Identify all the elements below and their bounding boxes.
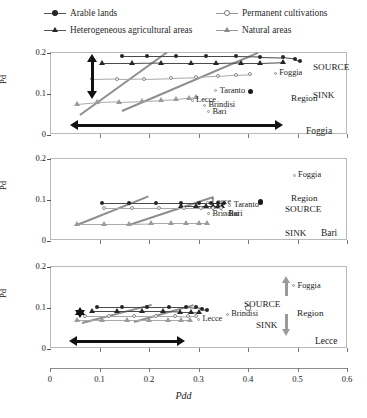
data-point — [158, 97, 164, 102]
sink-label: SINK — [256, 320, 277, 330]
data-point — [154, 314, 158, 318]
panel-label-lecce: Lecce — [315, 336, 337, 346]
vertical-range-arrow — [75, 307, 86, 318]
data-point — [194, 75, 198, 79]
source-label: SOURCE — [313, 62, 349, 72]
y-tick-0.2: 0.2 — [22, 154, 46, 163]
series-line — [176, 56, 206, 57]
data-point — [188, 309, 194, 314]
data-point — [74, 221, 80, 226]
data-point — [199, 206, 203, 210]
region-marker — [258, 199, 264, 205]
data-point — [204, 54, 208, 58]
data-point — [257, 60, 263, 65]
data-point — [145, 305, 149, 309]
panel-x-tick — [199, 348, 200, 352]
data-point — [89, 308, 95, 313]
data-point — [94, 99, 100, 104]
y-tick-0: 0 — [22, 344, 46, 353]
data-point — [187, 317, 193, 322]
data-point — [196, 220, 202, 225]
data-point — [248, 72, 252, 76]
y-axis-title: Pd — [0, 289, 8, 298]
chart-panel-lecce: Pd 0.2 0.1 0 LecceBrindisiFoggia SOURCE … — [0, 260, 367, 366]
panel-x-tick — [199, 240, 200, 244]
plot-area: LecceBrindisiFoggia — [50, 266, 347, 348]
data-point — [139, 308, 145, 313]
series-line — [129, 203, 156, 204]
panel-x-tick — [248, 348, 249, 352]
x-tick-mark — [149, 368, 150, 372]
data-point — [116, 99, 122, 104]
data-point — [160, 308, 166, 313]
series-line — [147, 56, 177, 57]
panel-x-tick — [149, 134, 150, 138]
data-point — [182, 206, 186, 210]
x-tick-label-0.3: 0.3 — [193, 374, 204, 384]
data-point — [126, 221, 132, 226]
x-tick-label-0.4: 0.4 — [243, 374, 254, 384]
series-line — [102, 203, 129, 204]
data-point — [173, 314, 177, 318]
y-axis-title: Pd — [0, 181, 8, 190]
data-point — [234, 54, 238, 58]
x-axis-title: Pdd — [0, 390, 367, 401]
x-tick-label-0: 0 — [48, 374, 52, 384]
panel-x-tick — [248, 134, 249, 138]
panel-x-tick — [347, 134, 348, 138]
data-point — [129, 60, 135, 65]
region-label: Region — [291, 93, 318, 103]
data-point — [120, 54, 124, 58]
y-axis-title: Pd — [0, 75, 8, 84]
city-marker-bari — [207, 110, 210, 113]
region-marker — [248, 89, 254, 95]
legend-label: Permanent cultivations — [242, 8, 327, 18]
data-point — [204, 220, 210, 225]
panel-x-tick — [100, 134, 101, 138]
series-line — [144, 78, 171, 80]
legend-item-heterogeneous-agricultural-areas: Heterogeneous agricultural areas — [44, 25, 192, 35]
data-point — [174, 54, 178, 58]
city-marker-foggia — [292, 284, 295, 287]
y-tick-0.1: 0.1 — [22, 195, 46, 204]
panel-x-tick — [298, 348, 299, 352]
city-marker-brindisi — [203, 104, 206, 107]
sink-arrow-down-icon — [282, 308, 291, 336]
x-tick-mark — [100, 368, 101, 372]
data-point — [234, 73, 238, 77]
legend-label: Arable lands — [70, 8, 117, 18]
data-point — [165, 317, 171, 322]
y-tick-0.1: 0.1 — [22, 303, 46, 312]
y-tick-0: 0 — [22, 130, 46, 139]
city-label-taranto: Taranto — [220, 86, 245, 95]
data-point — [99, 60, 105, 65]
data-point — [102, 206, 106, 210]
y-tick-0.2: 0.2 — [22, 262, 46, 271]
region-label: Region — [291, 193, 318, 203]
city-marker-lecce — [191, 99, 194, 102]
city-label-lecce: Lecce — [203, 314, 223, 323]
city-marker-taranto — [228, 204, 231, 207]
city-label-bari: Bari — [212, 107, 226, 116]
x-tick-label-0.1: 0.1 — [94, 374, 105, 384]
data-point — [188, 60, 194, 65]
data-point — [168, 220, 174, 225]
panel-x-tick — [298, 240, 299, 244]
legend-label: Natural areas — [242, 25, 291, 35]
series-line — [109, 316, 134, 317]
data-point — [95, 305, 99, 309]
series-line — [206, 56, 236, 57]
chart-legend: Arable lands Heterogeneous agricultural … — [44, 8, 364, 42]
panel-x-tick — [199, 134, 200, 138]
data-point — [216, 74, 220, 78]
series-line — [161, 63, 191, 64]
panel-x-tick — [149, 240, 150, 244]
data-point — [124, 317, 130, 322]
legend-item-permanent-cultivations: Permanent cultivations — [216, 8, 327, 18]
city-label-foggia: Foggia — [279, 68, 302, 77]
city-label-bari: Bari — [228, 209, 242, 218]
sink-label: SINK — [285, 228, 306, 238]
city-marker-foggia — [274, 72, 277, 75]
data-point — [127, 201, 131, 205]
data-point — [169, 76, 173, 80]
